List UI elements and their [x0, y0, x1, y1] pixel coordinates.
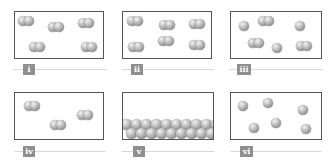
panel-label: v: [133, 146, 145, 157]
sphere-icon: [84, 18, 94, 28]
sphere-icon: [35, 42, 45, 52]
sphere-icon: [133, 16, 143, 26]
panel-label: iv: [23, 146, 35, 157]
particle-box: [230, 92, 322, 140]
sphere-icon: [263, 98, 273, 108]
sphere-icon: [302, 41, 312, 51]
sphere-icon: [298, 105, 308, 115]
panel-ii: ii: [110, 0, 220, 83]
panel-label: vi: [240, 146, 253, 157]
sphere-icon: [271, 118, 281, 128]
particle-box: [14, 92, 104, 140]
panel-label: ii: [131, 64, 143, 75]
sphere-icon: [24, 16, 34, 26]
sphere-icon: [238, 101, 248, 111]
sphere-icon: [134, 42, 144, 52]
sphere-icon: [164, 36, 174, 46]
sphere-icon: [264, 16, 274, 26]
sphere-icon: [56, 120, 66, 130]
sphere-icon: [249, 123, 259, 133]
sphere-icon: [206, 128, 214, 139]
sphere-icon: [87, 42, 97, 52]
sphere-icon: [54, 22, 64, 32]
panel-iii: iii: [220, 0, 330, 83]
sphere-icon: [295, 21, 305, 31]
particle-box: [14, 11, 104, 59]
particle-box: [122, 11, 212, 59]
panel-label: iii: [237, 64, 251, 75]
particle-box: [230, 11, 322, 59]
panel-iv: iv: [0, 83, 110, 166]
sphere-icon: [30, 101, 40, 111]
panel-vi: vi: [220, 83, 330, 166]
panel-label: i: [23, 64, 35, 75]
sphere-icon: [254, 38, 264, 48]
particle-box: [122, 92, 214, 140]
panel-v: v: [110, 83, 220, 166]
sphere-icon: [239, 21, 249, 31]
sphere-icon: [83, 110, 93, 120]
sphere-icon: [301, 124, 311, 134]
panel-i: i: [0, 0, 110, 83]
sphere-icon: [272, 43, 282, 53]
sphere-icon: [165, 20, 175, 30]
sphere-icon: [195, 19, 205, 29]
sphere-icon: [195, 40, 205, 50]
